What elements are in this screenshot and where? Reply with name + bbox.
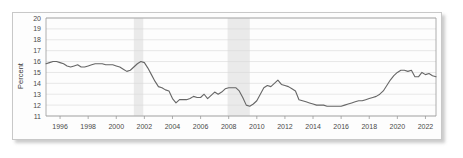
y-tick-label: 20 <box>33 15 41 22</box>
x-tick-label: 2012 <box>277 123 293 130</box>
y-tick-labels-group: 11121314151617181920 <box>33 15 41 120</box>
x-tick-label: 2006 <box>193 123 209 130</box>
x-tick-label: 2022 <box>418 123 434 130</box>
x-tick-label: 2000 <box>108 123 124 130</box>
x-tick-label: 2002 <box>137 123 153 130</box>
x-tick-label: 2014 <box>305 123 321 130</box>
y-tick-label: 14 <box>33 80 41 87</box>
recession-2001 <box>134 18 143 116</box>
y-tick-label: 11 <box>34 113 41 120</box>
y-tick-label: 15 <box>33 69 41 76</box>
y-axis-label: Percent <box>16 62 25 89</box>
y-tick-label: 19 <box>33 25 41 32</box>
y-tick-label: 12 <box>33 102 41 109</box>
x-tick-label: 2018 <box>361 123 377 130</box>
y-tick-label: 17 <box>33 47 41 54</box>
x-tick-label: 1998 <box>80 123 96 130</box>
x-tick-label: 2020 <box>390 123 406 130</box>
chart-figure: 11121314151617181920 1996199820002002200… <box>0 0 463 158</box>
y-tick-label: 16 <box>33 58 41 65</box>
x-tick-label: 2004 <box>165 123 181 130</box>
recession-2008 <box>228 18 250 116</box>
x-tick-label: 2016 <box>333 123 349 130</box>
y-tick-label: 13 <box>33 91 41 98</box>
y-tick-label: 18 <box>33 36 41 43</box>
recession-bands-group <box>134 18 250 116</box>
x-tick-label: 1996 <box>52 123 68 130</box>
x-tick-label: 2008 <box>221 123 237 130</box>
percent-line-chart: 11121314151617181920 1996199820002002200… <box>12 12 442 140</box>
x-tick-label: 2010 <box>249 123 265 130</box>
x-tick-labels-group: 1996199820002002200420062008201020122014… <box>52 116 433 130</box>
